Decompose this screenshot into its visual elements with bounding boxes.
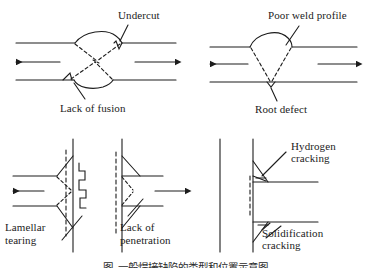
label-hydrogen-cracking-line1: Hydrogen xyxy=(291,141,336,153)
label-solidification-cracking-line2: cracking xyxy=(262,240,301,252)
label-poor-weld-profile: Poor weld profile xyxy=(268,10,347,22)
label-lamellar-tearing-line2: tearing xyxy=(5,235,36,247)
figure-caption: 图 一般焊接缺陷的类型和位置示意图 xyxy=(0,259,371,268)
panel-top-left-linework xyxy=(16,25,176,99)
label-lamellar-tearing-line1: Lamellar xyxy=(5,222,46,234)
label-lack-of-penetration-line1: Lack of xyxy=(120,222,155,234)
label-lack-of-fusion: Lack of fusion xyxy=(60,103,126,115)
welding-defects-figure: Undercut Lack of fusion Poor weld profil… xyxy=(0,0,371,268)
label-hydrogen-cracking-line2: cracking xyxy=(291,153,330,165)
panel-top-right-linework xyxy=(210,26,357,101)
label-lack-of-penetration-line2: penetration xyxy=(120,235,171,247)
label-undercut: Undercut xyxy=(118,10,160,22)
label-root-defect: Root defect xyxy=(255,104,307,116)
label-solidification-cracking-line1: Solidification xyxy=(262,228,323,240)
